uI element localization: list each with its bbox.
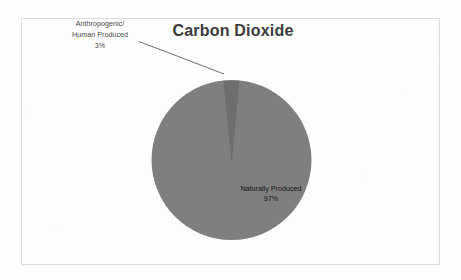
slice-label-naturally-produced: Naturally Produced 97% [213, 184, 329, 204]
slice-label-value: 97% [213, 194, 329, 204]
callout-leader-line [139, 42, 224, 75]
chart-screenshot: Carbon Dioxide Anthropogenic/ Human Prod… [0, 0, 461, 280]
callout-label-value: 3% [56, 40, 144, 51]
callout-label-anthropogenic: Anthropogenic/ Human Produced 3% [56, 18, 144, 51]
callout-label-line-2: Human Produced [56, 29, 144, 40]
chart-title: Carbon Dioxide [148, 22, 318, 40]
callout-label-line-1: Anthropogenic/ [56, 18, 144, 29]
slice-label-name: Naturally Produced [213, 184, 329, 194]
